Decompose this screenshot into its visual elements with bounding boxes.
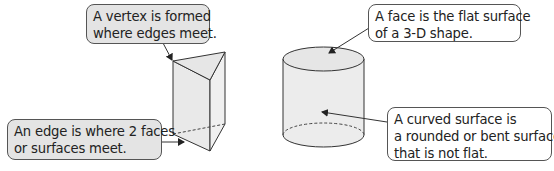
face-callout-line-1: A face is the flat surface bbox=[375, 8, 514, 25]
cylinder bbox=[283, 47, 364, 147]
vertex-arrow bbox=[163, 43, 172, 60]
edge-callout: An edge is where 2 faces or surfaces mee… bbox=[7, 119, 162, 160]
vertex-callout-line-2: where edges meet. bbox=[93, 25, 203, 42]
face-callout: A face is the flat surface of a 3-D shap… bbox=[368, 4, 521, 42]
curved-surface-callout: A curved surface is a rounded or bent su… bbox=[387, 107, 552, 161]
vertex-callout: A vertex is formed where edges meet. bbox=[86, 4, 210, 44]
edge-callout-line-1: An edge is where 2 faces bbox=[14, 123, 155, 140]
curved-callout-line-3: that is not flat. bbox=[394, 145, 545, 162]
curved-callout-line-1: A curved surface is bbox=[394, 111, 545, 128]
triangular-prism bbox=[173, 52, 225, 151]
face-callout-line-2: of a 3-D shape. bbox=[375, 25, 514, 42]
curved-callout-line-2: a rounded or bent surface bbox=[394, 128, 545, 145]
vertex-callout-line-1: A vertex is formed bbox=[93, 8, 203, 25]
edge-callout-line-2: or surfaces meet. bbox=[14, 140, 155, 157]
